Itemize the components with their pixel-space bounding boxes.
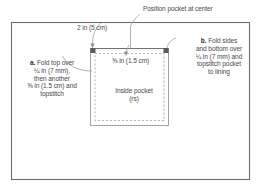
leader-five-eighths — [126, 45, 129, 56]
note-a: a. Fold top over ¼ in (7 mm), then anoth… — [12, 59, 92, 98]
diagram-canvas: Position pocket at center 2 in (5 cm) ⅝ … — [0, 0, 264, 192]
arrow-two-in — [90, 44, 94, 48]
corner-mark-top-right — [164, 49, 169, 54]
label-inside-pocket: Inside pocket (rs) — [103, 87, 165, 103]
corner-mark-top-left — [91, 49, 96, 54]
note-b: b. Fold sides and bottom over ¼ in (7 mm… — [178, 37, 260, 76]
label-two-inch-offset: 2 in (5 cm) — [77, 24, 137, 32]
note-a-text: Fold top over ¼ in (7 mm), then another … — [27, 59, 77, 97]
label-seam-allowance: ⅝ in (1.5 cm) — [112, 57, 174, 65]
arrow-five-eighths — [124, 52, 128, 56]
caption-position-pocket: Position pocket at center — [143, 5, 263, 13]
leader-note-b — [167, 38, 176, 48]
